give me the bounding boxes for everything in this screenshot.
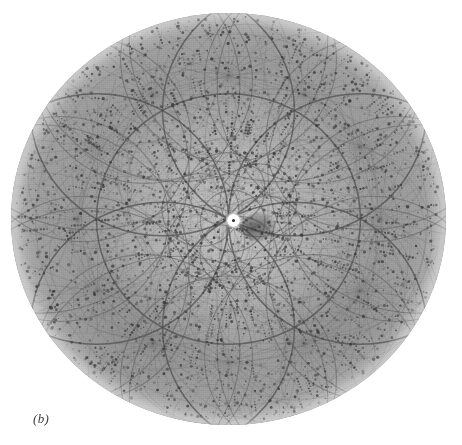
beam-stop-shadow: [240, 210, 278, 244]
diffraction-plate: [11, 13, 446, 425]
beam-stop: [11, 13, 446, 425]
figure-caption: (b): [33, 411, 49, 427]
figure-root: (b): [0, 0, 462, 445]
beam-stop-center-dot: [232, 219, 235, 222]
